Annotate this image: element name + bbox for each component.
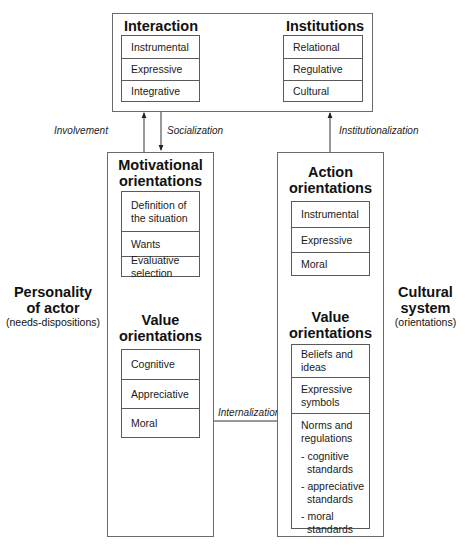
- cultural-value-list: Beliefs and ideas Expressive symbols Nor…: [291, 344, 370, 529]
- interaction-item-instrumental: Instrumental: [122, 36, 199, 58]
- institutions-title: Institutions: [278, 18, 372, 34]
- institutions-item-regulative: Regulative: [284, 58, 362, 80]
- socialization-label: Socialization: [167, 125, 223, 136]
- cultural-value-title: Value orientations: [278, 309, 383, 341]
- motivational-item-wants: Wants: [122, 231, 199, 256]
- cultural-value-item-beliefs: Beliefs and ideas: [292, 345, 369, 377]
- cultural-value-item-norms: Norms and regulations - cognitive standa…: [292, 413, 369, 529]
- cultural-side-subtitle: (orientations): [386, 316, 465, 329]
- action-title: Action orientations: [278, 164, 383, 196]
- motivational-item-evaluative: Evaluative selection: [122, 256, 199, 277]
- personality-value-item-cognitive: Cognitive: [122, 350, 199, 379]
- interaction-title: Interaction: [116, 18, 206, 34]
- standard-appreciative: - appreciative standards: [301, 480, 369, 506]
- action-list: Instrumental Expressive Moral: [291, 201, 370, 276]
- action-item-moral: Moral: [292, 252, 369, 276]
- personality-value-item-appreciative: Appreciative: [122, 379, 199, 408]
- personality-value-item-moral: Moral: [122, 408, 199, 438]
- personality-value-title: Value orientations: [108, 312, 213, 344]
- interaction-item-integrative: Integrative: [122, 80, 199, 102]
- cultural-value-item-symbols: Expressive symbols: [292, 377, 369, 413]
- personality-side-subtitle: (needs-dispositions): [2, 316, 104, 329]
- motivational-item-definition: Definition of the situation: [122, 192, 199, 231]
- motivational-title: Motivational orientations: [108, 157, 213, 189]
- institutions-item-relational: Relational: [284, 36, 362, 58]
- personality-side-title: Personality of actor (needs-dispositions…: [2, 284, 104, 329]
- standard-cognitive: - cognitive standards: [301, 450, 369, 476]
- interaction-item-expressive: Expressive: [122, 58, 199, 80]
- cultural-side-title: Cultural system (orientations): [386, 284, 465, 329]
- internalization-label: Internalization: [218, 407, 280, 418]
- institutionalization-label: Institutionalization: [339, 125, 419, 136]
- involvement-label: Involvement: [54, 125, 108, 136]
- standard-moral: - moral standards: [301, 510, 369, 536]
- institutions-item-cultural: Cultural: [284, 80, 362, 102]
- motivational-list: Definition of the situation Wants Evalua…: [121, 191, 200, 277]
- personality-value-list: Cognitive Appreciative Moral: [121, 349, 200, 438]
- interaction-list: Instrumental Expressive Integrative: [121, 35, 200, 102]
- action-item-expressive: Expressive: [292, 227, 369, 252]
- action-item-instrumental: Instrumental: [292, 202, 369, 227]
- institutions-list: Relational Regulative Cultural: [283, 35, 363, 102]
